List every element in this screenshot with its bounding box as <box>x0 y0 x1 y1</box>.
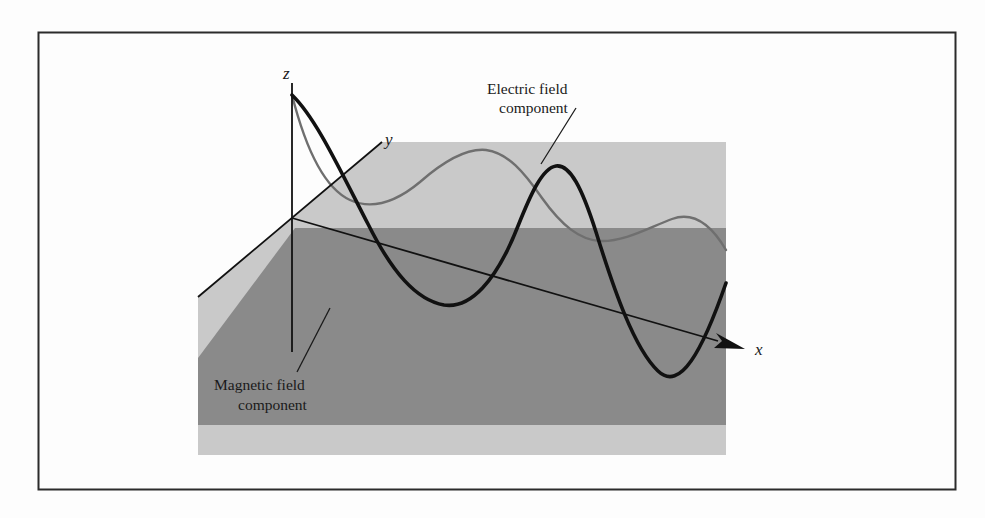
x-axis-label: x <box>754 340 763 359</box>
electric-callout-line2: component <box>499 99 569 116</box>
electric-callout-line1: Electric field <box>487 80 568 97</box>
z-axis-label: z <box>282 64 290 83</box>
y-axis-label: y <box>383 130 393 149</box>
magnetic-callout-line2: component <box>238 396 308 413</box>
magnetic-callout-line1: Magnetic field <box>214 376 305 393</box>
em-wave-diagram: z y x Electric field component Magnetic … <box>0 0 985 518</box>
figure-root: z y x Electric field component Magnetic … <box>0 0 985 518</box>
plane-light-mask-bottom <box>198 455 726 488</box>
